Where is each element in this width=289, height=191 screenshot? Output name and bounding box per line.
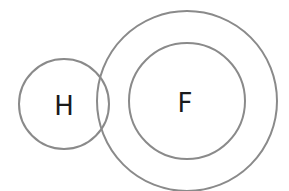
fluorine-symbol: F bbox=[178, 88, 193, 118]
atom-diagram: H F bbox=[0, 0, 289, 191]
fluorine-atom: F bbox=[97, 11, 277, 191]
hydrogen-atom: H bbox=[19, 59, 109, 149]
hydrogen-symbol: H bbox=[54, 91, 74, 121]
